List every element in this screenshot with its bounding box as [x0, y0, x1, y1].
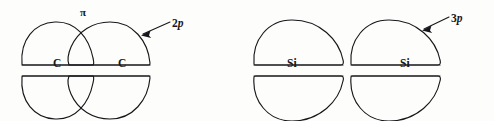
- carbon-2p-leader-line: [143, 22, 170, 34]
- carbon-left-lower-lobe: [22, 76, 94, 119]
- carbon-right-lower-lobe: [68, 76, 150, 119]
- silicon-left-atom-label: Si: [287, 58, 297, 70]
- carbon-right-atom-label: C: [118, 58, 126, 70]
- silicon-orbital-group: [254, 20, 441, 121]
- orbital-overlap-figure: π 2p 3p C C Si Si: [0, 0, 494, 121]
- silicon-right-upper-lobe: [351, 20, 441, 65]
- silicon-3p-callout: [422, 17, 449, 33]
- pi-bond-label: π: [80, 7, 86, 18]
- carbon-orbital-group: [22, 22, 150, 119]
- silicon-left-upper-lobe: [254, 20, 344, 65]
- carbon-2p-callout: [141, 22, 170, 38]
- carbon-left-atom-label: C: [53, 58, 61, 70]
- carbon-2p-arrow-head: [141, 31, 151, 38]
- silicon-3p-leader-line: [424, 17, 449, 29]
- orbital-diagram-canvas: [0, 0, 494, 121]
- silicon-3p-orbital-label: 3p: [451, 13, 463, 25]
- silicon-left-lower-lobe: [254, 76, 344, 121]
- carbon-right-upper-lobe: [68, 22, 150, 65]
- silicon-3p-type: p: [457, 12, 463, 24]
- silicon-right-lower-lobe: [351, 76, 441, 121]
- carbon-2p-orbital-label: 2p: [172, 18, 184, 30]
- silicon-right-atom-label: Si: [400, 58, 410, 70]
- carbon-2p-type: p: [178, 17, 184, 29]
